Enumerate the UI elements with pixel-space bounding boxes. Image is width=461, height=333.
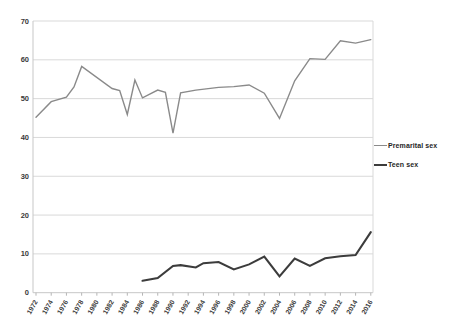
y-tick-label: 0: [25, 288, 29, 297]
premarital-sex-line: [36, 40, 371, 134]
x-tick-label: 1998: [223, 299, 237, 316]
legend-label-teen-sex: Teen sex: [388, 161, 418, 168]
x-tick-label: 1984: [117, 299, 131, 316]
x-tick-label: 1982: [101, 299, 115, 316]
x-tick-label: 2008: [299, 299, 313, 316]
x-tick-label: 1992: [177, 299, 191, 316]
x-tick-label: 1994: [193, 299, 207, 316]
x-tick-label: 2000: [238, 299, 252, 316]
x-tick-label: 1990: [162, 299, 176, 316]
y-tick-label: 60: [21, 55, 29, 64]
x-tick-label: 1996: [208, 299, 222, 316]
x-tick-label: 2010: [314, 299, 328, 316]
x-tick-label: 2016: [360, 299, 374, 316]
y-tick-label: 40: [21, 133, 29, 142]
x-tick-label: 1976: [56, 299, 70, 316]
legend-item-premarital-sex: Premarital sex: [374, 141, 437, 150]
x-tick-label: 1980: [86, 299, 100, 316]
y-tick-label: 30: [21, 172, 29, 181]
x-tick-label: 1978: [71, 299, 85, 316]
x-tick-label: 2006: [284, 299, 298, 316]
chart-container: 0102030405060701972197419761978198019821…: [0, 0, 461, 333]
x-tick-label: 2002: [254, 299, 268, 316]
y-tick-label: 20: [21, 211, 29, 220]
legend: Premarital sex Teen sex: [374, 141, 437, 179]
premarital-sex-line-swatch-icon: [374, 145, 387, 146]
x-tick-label: 1972: [25, 299, 39, 316]
x-tick-label: 1986: [132, 299, 146, 316]
x-tick-label: 2014: [345, 299, 359, 316]
y-tick-label: 10: [21, 249, 29, 258]
y-tick-label: 50: [21, 94, 29, 103]
x-tick-label: 2012: [330, 299, 344, 316]
x-tick-label: 2004: [269, 299, 283, 316]
teen-sex-line: [143, 232, 371, 281]
x-tick-label: 1988: [147, 299, 161, 316]
x-tick-label: 1974: [40, 299, 54, 316]
legend-label-premarital-sex: Premarital sex: [388, 142, 437, 149]
legend-item-teen-sex: Teen sex: [374, 160, 437, 169]
teen-sex-line-swatch-icon: [374, 164, 387, 166]
y-tick-label: 70: [21, 17, 29, 26]
